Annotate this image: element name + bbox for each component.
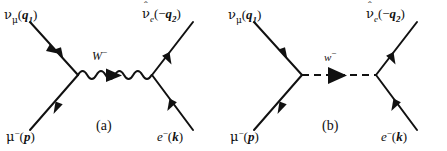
- glyph-rparen-3: ): [254, 129, 258, 144]
- feynman-diagram-b: νμ(q1) ˆνe(−q2) μ−(p) e−(k) w− (b): [224, 0, 447, 151]
- hat-accent-icon: ˆ: [144, 0, 148, 11]
- glyph-minus-charge-W: −: [102, 47, 107, 57]
- glyph-W-particle: W: [92, 49, 102, 63]
- arrowhead-top-left: [55, 47, 64, 59]
- arrowhead-bottom-right: [391, 99, 401, 111]
- glyph-rparen-4: ): [179, 129, 183, 144]
- propagator-dashed-w: [302, 67, 376, 84]
- label-outgoing-electron: e−(k): [157, 130, 183, 143]
- glyph-rparen-4: ): [403, 129, 407, 144]
- feynman-figure: νμ(q1) ˆνe(−q2) μ−(p) e−(k) W− (a): [0, 0, 447, 151]
- caption-b: (b): [322, 119, 338, 133]
- nu-with-hat: ˆν: [142, 7, 150, 20]
- glyph-rparen-1: ): [257, 7, 261, 22]
- label-outgoing-electron: e−(k): [381, 130, 407, 143]
- arrowhead-top-right: [162, 52, 171, 64]
- glyph-nu: ν: [228, 7, 236, 22]
- nu-with-hat: ˆν: [366, 7, 374, 20]
- label-incoming-nu-mu: νμ(q1): [228, 8, 261, 21]
- glyph-minus-charge-w: −: [331, 48, 336, 58]
- leg-line-top-right: [376, 22, 417, 75]
- hat-accent-icon: ˆ: [368, 0, 372, 11]
- leg-line-top-left: [254, 22, 302, 75]
- arrowhead-top-right: [386, 52, 395, 64]
- label-incoming-muon: μ−(p): [6, 130, 35, 143]
- glyph-rparen-1: ): [33, 7, 37, 22]
- label-outgoing-nubar-e: ˆνe(−q2): [366, 7, 405, 20]
- leg-line-bottom-right: [376, 75, 417, 130]
- glyph-nu: ν: [4, 7, 12, 22]
- arrowhead-top-left: [279, 47, 288, 59]
- feynman-diagram-a: νμ(q1) ˆνe(−q2) μ−(p) e−(k) W− (a): [0, 0, 223, 151]
- leg-line-bottom-left: [254, 75, 302, 130]
- glyph-minus-q: −: [382, 6, 389, 21]
- glyph-rparen-2: ): [177, 6, 181, 21]
- arrowhead-bottom-left: [278, 102, 287, 114]
- label-outgoing-nubar-e: ˆνe(−q2): [142, 7, 181, 20]
- caption-a: (a): [96, 119, 112, 133]
- propagator-arrowhead-b: [328, 67, 347, 84]
- propagator-wavy-w: [78, 69, 152, 83]
- label-incoming-muon: μ−(p): [230, 130, 259, 143]
- label-propagator-w-lower: w−: [324, 52, 336, 63]
- glyph-rparen-2: ): [401, 6, 405, 21]
- label-propagator-w-boson: W−: [92, 50, 107, 62]
- arrowhead-bottom-right: [167, 99, 177, 111]
- glyph-minus-q: −: [158, 6, 165, 21]
- leg-line-top-right: [152, 22, 193, 75]
- leg-line-top-left: [30, 22, 78, 75]
- label-incoming-nu-mu: νμ(q1): [4, 8, 37, 21]
- leg-line-bottom-left: [30, 75, 78, 130]
- arrowhead-bottom-left: [54, 102, 63, 114]
- glyph-rparen-3: ): [30, 129, 34, 144]
- leg-line-bottom-right: [152, 75, 193, 130]
